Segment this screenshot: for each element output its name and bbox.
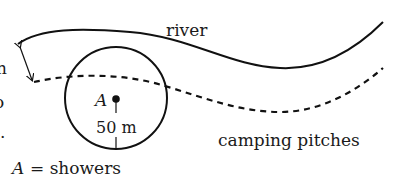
clipped-text-1: n	[0, 58, 7, 78]
boundary-dashed-line	[34, 68, 383, 112]
clipped-text-3: .	[0, 122, 5, 142]
camping-pitches-label: camping pitches	[218, 130, 360, 150]
distance-arrow	[20, 47, 32, 80]
radius-label: 50 m	[96, 118, 137, 137]
legend-variable: A	[10, 158, 24, 178]
campsite-diagram: A 50 m river camping pitches A = showers…	[0, 0, 402, 178]
point-a-label: A	[93, 90, 107, 110]
legend-text: = showers	[30, 158, 121, 178]
river-label: river	[166, 20, 208, 40]
clipped-text-2: o	[0, 92, 4, 112]
